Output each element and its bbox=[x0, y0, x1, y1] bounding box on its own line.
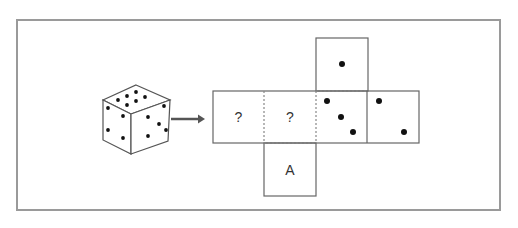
net-row-4-dot bbox=[376, 98, 382, 104]
net-face-2-label: ? bbox=[286, 109, 294, 125]
cube-top-dot bbox=[134, 90, 138, 94]
net-row-4-dot bbox=[401, 129, 407, 135]
cube-right-dot bbox=[146, 134, 150, 138]
cube-left-dot bbox=[121, 136, 125, 140]
cube-top-dot bbox=[134, 99, 138, 103]
cube-net bbox=[213, 38, 419, 196]
net-face-1-label: ? bbox=[235, 109, 243, 125]
net-top-dot bbox=[339, 61, 345, 67]
puzzle-canvas: ? ? A bbox=[0, 0, 518, 228]
cube-right-dot bbox=[162, 104, 166, 108]
cube-right-dot bbox=[164, 128, 168, 132]
cube-top-dot bbox=[125, 94, 129, 98]
cube-left-dot bbox=[106, 128, 110, 132]
net-face-bottom-label: A bbox=[285, 162, 295, 178]
right-arrow-icon bbox=[171, 115, 205, 124]
cube-top-dot bbox=[116, 98, 120, 102]
cube-top-dot bbox=[143, 95, 147, 99]
cube-right-dot bbox=[146, 115, 150, 119]
cube-right-dot bbox=[157, 122, 161, 126]
net-row-3-dot bbox=[338, 114, 344, 120]
net-dots bbox=[324, 61, 407, 135]
cube-left-dot bbox=[106, 106, 110, 110]
cube-top-dot bbox=[125, 103, 129, 107]
net-row-3-dot bbox=[350, 129, 356, 135]
cube-left-dot bbox=[121, 114, 125, 118]
net-row-3-dot bbox=[324, 98, 330, 104]
cube bbox=[103, 85, 170, 154]
